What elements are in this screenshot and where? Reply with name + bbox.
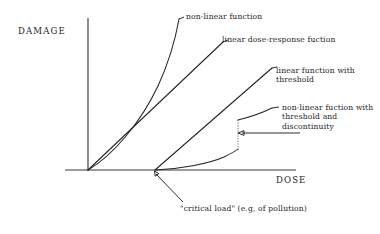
critical-load-leader-line [156, 174, 183, 202]
critical-load-leader-arrowhead [155, 171, 159, 176]
curve-label-linear-with-threshold: linear function with threshold [276, 66, 372, 85]
curve-label-linear-dose-response: linear dose-response fuction [222, 36, 335, 45]
non-linear-threshold-label-tick [272, 107, 279, 108]
curve-label-non-linear-threshold-discontinuity: non-linear fuction with threshold and di… [282, 103, 376, 131]
non-linear-label-tick [179, 17, 184, 19]
curve-linear-with-threshold [155, 68, 272, 170]
figure-canvas: DAMAGE DOSE non-linear function linear d… [0, 0, 380, 234]
x-axis-label: DOSE [276, 175, 307, 185]
curve-non-linear [88, 19, 179, 170]
curve-linear-dose-response [88, 42, 223, 170]
curve-non-linear-threshold-upper [238, 108, 272, 120]
critical-load-annotation: "critical load" (e.g, of pollution) [180, 205, 307, 214]
y-axis-label: DAMAGE [18, 26, 66, 36]
curve-label-non-linear: non-linear function [186, 13, 262, 22]
